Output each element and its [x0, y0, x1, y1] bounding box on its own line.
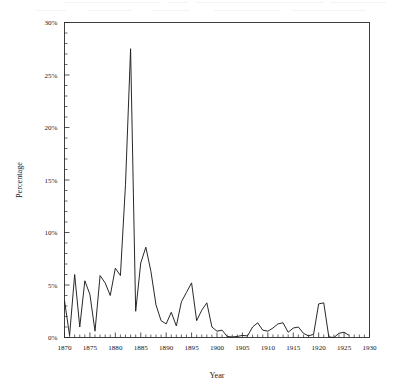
x-tick-label: 1910: [261, 344, 276, 352]
x-tick-label: 1925: [337, 344, 352, 352]
x-tick-label: 1870: [57, 344, 72, 352]
y-axis-tick-labels: 0%5%10%15%20%25%30%: [44, 19, 57, 342]
x-tick-label: 1880: [108, 344, 123, 352]
y-tick-label: 0%: [48, 334, 58, 342]
x-tick-label: 1890: [159, 344, 174, 352]
y-axis-title: Percentage: [15, 162, 24, 198]
y-axis-ticks: [65, 23, 70, 338]
x-tick-label: 1915: [286, 344, 301, 352]
x-tick-label: 1875: [83, 344, 98, 352]
y-tick-label: 15%: [44, 177, 57, 185]
x-tick-label: 1905: [235, 344, 250, 352]
x-axis-title-text: Year: [209, 371, 224, 380]
y-axis-title-text: Percentage: [15, 162, 24, 198]
x-tick-label: 1920: [312, 344, 327, 352]
plot-frame: [65, 23, 370, 338]
y-tick-label: 10%: [44, 229, 57, 237]
x-tick-label: 1895: [184, 344, 199, 352]
y-tick-label: 5%: [48, 282, 58, 290]
x-tick-label: 1900: [210, 344, 225, 352]
x-tick-label: 1930: [362, 344, 377, 352]
x-axis-ticks: [65, 333, 370, 338]
data-series-line: [65, 49, 350, 338]
y-tick-label: 30%: [44, 19, 57, 27]
x-tick-label: 1885: [134, 344, 149, 352]
x-axis-tick-labels: 1870187518801885189018951900190519101915…: [57, 344, 377, 352]
line-chart-svg: 0%5%10%15%20%25%30% 18701875188018851890…: [0, 0, 394, 391]
y-tick-label: 20%: [44, 124, 57, 132]
x-axis-title: Year: [209, 371, 224, 380]
y-tick-label: 25%: [44, 72, 57, 80]
chart-figure: 0%5%10%15%20%25%30% 18701875188018851890…: [0, 0, 394, 391]
